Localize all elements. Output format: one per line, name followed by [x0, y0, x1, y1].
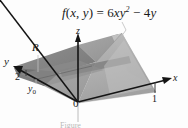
formula-paren-close: ): [89, 5, 93, 20]
formula-exponent-2: 2: [126, 5, 130, 14]
formula-term-y2: y: [150, 5, 156, 20]
formula-minus: −: [133, 5, 140, 20]
formula-equals: =: [96, 5, 103, 20]
function-formula-label: f(x, y) = 6xy2 − 4y: [62, 6, 156, 19]
origin-label-0: 0: [73, 98, 79, 109]
axis-label-z: z: [76, 26, 80, 36]
slice-label-y0: y0: [28, 84, 36, 96]
axis-label-x: x: [173, 73, 177, 83]
formula-comma: ,: [76, 5, 79, 20]
figure-caption: Figure: [60, 121, 130, 128]
formula-coefficient-6: 6: [107, 5, 114, 20]
axis-tick-label-y-2: 2: [15, 72, 20, 82]
axis-x-arrow: [162, 77, 172, 84]
figure-container: f(x, y) = 6xy2 − 4y z x y R y0 1 2 0 Fig…: [0, 0, 188, 128]
region-label-R: R: [32, 42, 39, 53]
slice-label-subscript: 0: [32, 88, 36, 96]
axis-tick-label-x-1: 1: [152, 94, 157, 104]
axis-label-y: y: [4, 56, 9, 67]
